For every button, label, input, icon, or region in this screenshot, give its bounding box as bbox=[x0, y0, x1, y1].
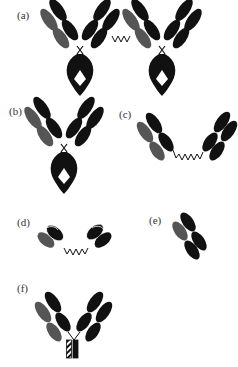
antibody-dimer-a bbox=[37, 0, 205, 96]
antibody-modified-f bbox=[32, 289, 116, 358]
fab-e bbox=[169, 210, 210, 262]
fab-dimer-c bbox=[134, 109, 238, 163]
antibody-diagram bbox=[0, 0, 238, 367]
scfv-dimer-d bbox=[35, 221, 114, 255]
antibody-igg-b bbox=[21, 94, 107, 194]
